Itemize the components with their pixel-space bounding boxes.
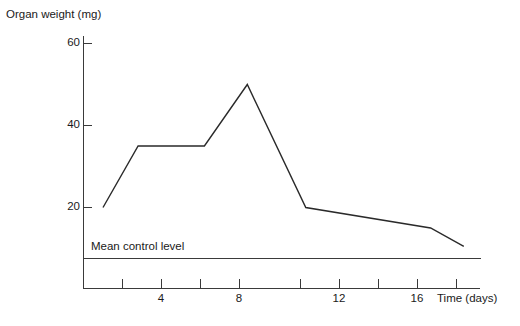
x-axis-ticks [123,279,457,289]
x-axis-title: Time (days) [437,292,497,304]
line-chart [0,0,520,326]
y-tick-label-40: 40 [60,118,80,130]
y-axis-title: Organ weight (mg) [6,8,101,20]
x-tick-label-12: 12 [329,292,349,304]
mean-control-level-label: Mean control level [91,240,184,252]
chart-container: Organ weight (mg) Time (days) 60 40 20 4… [0,0,520,326]
x-tick-label-16: 16 [407,292,427,304]
organ-weight-line [103,85,464,247]
x-tick-label-8: 8 [229,292,249,304]
y-tick-label-60: 60 [60,36,80,48]
x-tick-label-4: 4 [151,292,171,304]
y-axis-ticks [84,44,93,259]
y-tick-label-20: 20 [60,200,80,212]
